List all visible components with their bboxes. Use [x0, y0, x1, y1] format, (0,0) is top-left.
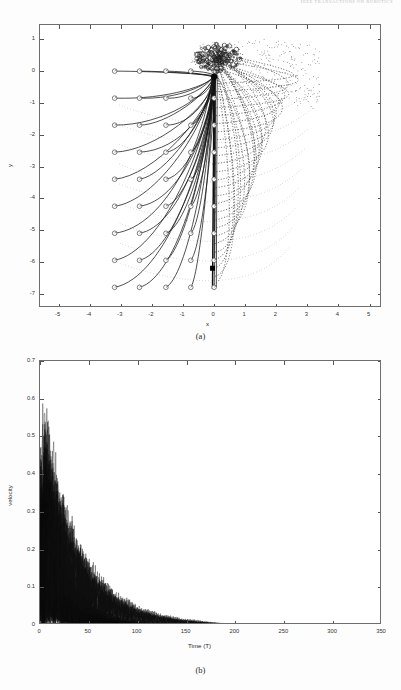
panel-a-ytick-right — [378, 135, 381, 136]
panel-a-plot-canvas — [40, 25, 381, 307]
panel-a-xlabel: x — [206, 320, 209, 327]
panel-a-xtick — [245, 304, 246, 307]
panel-b-ytick — [40, 550, 44, 551]
panel-a-xtick-label: -5 — [55, 311, 60, 317]
panel-a-ytick-label: -7 — [17, 290, 35, 296]
panel-b-ytick — [40, 587, 44, 588]
panel-a-ytick — [40, 39, 44, 40]
panel-b-xtick-label: 100 — [132, 628, 142, 634]
panel-b-xtick — [89, 621, 90, 624]
panel-b-ytick-right — [378, 512, 381, 513]
panel-b-ytick-right — [378, 399, 381, 400]
panel-b-xtick-label: 50 — [85, 628, 91, 634]
panel-b-ytick-label: 0.5 — [15, 432, 35, 438]
panel-a: x y (a) -5-4-3-2-101234510-1-2-3-4-5-6-7 — [0, 0, 401, 345]
panel-a-xtick — [59, 304, 60, 307]
panel-b-xtick-label: 150 — [181, 628, 191, 634]
panel-b-ytick-label: 0.7 — [15, 357, 35, 363]
panel-b-xtick-label: 200 — [230, 628, 240, 634]
panel-a-xtick-top — [121, 25, 122, 29]
panel-b-xtick — [284, 621, 285, 624]
panel-b-xtick-label: 350 — [376, 628, 386, 634]
panel-b-ytick — [40, 361, 44, 362]
panel-a-ytick-label: -1 — [17, 99, 35, 105]
panel-a-xtick — [90, 304, 91, 307]
panel-b-xtick-top — [187, 361, 188, 365]
panel-b-xtick-label: 250 — [278, 628, 288, 634]
panel-a-xtick — [276, 304, 277, 307]
panel-b-ytick — [40, 474, 44, 475]
panel-b-ytick — [40, 399, 44, 400]
panel-a-xtick-label: 5 — [367, 311, 370, 317]
panel-a-ytick-right — [378, 294, 381, 295]
panel-b-xtick — [235, 621, 236, 624]
panel-a-xtick-label: 3 — [305, 311, 308, 317]
panel-b-ytick-label: 0.6 — [15, 395, 35, 401]
panel-a-xtick — [307, 304, 308, 307]
panel-a-xtick-label: 2 — [274, 311, 277, 317]
panel-b-caption: (b) — [0, 665, 401, 675]
panel-b-ytick-right — [378, 361, 381, 362]
panel-a-ytick-right — [378, 71, 381, 72]
panel-a-xtick — [370, 304, 371, 307]
panel-a-xtick-label: 4 — [336, 311, 339, 317]
panel-a-ytick-right — [378, 230, 381, 231]
panel-a-xtick-label: 0 — [211, 311, 214, 317]
panel-a-xtick-top — [338, 25, 339, 29]
panel-b-xlabel: Time (T) — [188, 642, 211, 649]
panel-b-xtick — [40, 621, 41, 624]
panel-b-axes-frame — [39, 360, 381, 624]
panel-b-xtick-top — [333, 361, 334, 365]
panel-b-ytick-right — [378, 474, 381, 475]
panel-a-ytick-right — [378, 262, 381, 263]
panel-b-xtick-top — [138, 361, 139, 365]
panel-b-ylabel: velocity — [6, 485, 13, 506]
panel-a-ytick-right — [378, 39, 381, 40]
panel-a-xtick-top — [370, 25, 371, 29]
panel-a-xtick-top — [59, 25, 60, 29]
panel-a-xtick — [338, 304, 339, 307]
panel-b-xtick-top — [235, 361, 236, 365]
panel-b-ytick-label: 0.4 — [15, 470, 35, 476]
panel-b-xtick — [138, 621, 139, 624]
panel-b-xtick-label: 0 — [37, 628, 40, 634]
panel-a-xtick-top — [152, 25, 153, 29]
panel-b-ytick-label: 0.3 — [15, 508, 35, 514]
panel-b-ytick-label: 0.2 — [15, 546, 35, 552]
panel-b-xtick-top — [284, 361, 285, 365]
panel-a-ytick-label: -5 — [17, 226, 35, 232]
panel-a-xtick-top — [307, 25, 308, 29]
panel-a-ytick-right — [378, 103, 381, 104]
panel-a-xtick-top — [245, 25, 246, 29]
panel-a-xtick-top — [214, 25, 215, 29]
panel-a-ytick-label: -3 — [17, 163, 35, 169]
panel-b-ytick-label: 0 — [15, 621, 35, 627]
panel-a-xtick-label: 1 — [243, 311, 246, 317]
panel-a-ytick — [40, 71, 44, 72]
panel-a-ytick — [40, 103, 44, 104]
panel-a-ytick — [40, 230, 44, 231]
panel-a-xtick — [183, 304, 184, 307]
panel-a-ytick-label: -6 — [17, 258, 35, 264]
panel-a-xtick-label: -3 — [117, 311, 122, 317]
panel-b-ytick-right — [378, 436, 381, 437]
panel-a-xtick-top — [183, 25, 184, 29]
panel-a-ytick-right — [378, 167, 381, 168]
panel-b-ytick — [40, 512, 44, 513]
panel-b-ytick-right — [378, 587, 381, 588]
panel-a-xtick-label: -1 — [179, 311, 184, 317]
panel-a-xtick-label: -4 — [86, 311, 91, 317]
panel-a-xtick-top — [90, 25, 91, 29]
panel-a-caption: (a) — [0, 331, 401, 341]
panel-b-xtick-top — [89, 361, 90, 365]
panel-a-xtick-top — [276, 25, 277, 29]
panel-a-ytick — [40, 198, 44, 199]
figure-page: IEEE TRANSACTIONS ON ROBOTICS x y (a) -5… — [0, 0, 401, 690]
panel-b-xtick — [187, 621, 188, 624]
panel-a-ylabel: y — [6, 164, 13, 167]
panel-b-xtick-label: 300 — [327, 628, 337, 634]
panel-a-ytick — [40, 167, 44, 168]
panel-b-ytick-label: 0.1 — [15, 583, 35, 589]
panel-a-xtick — [121, 304, 122, 307]
panel-a-ytick — [40, 294, 44, 295]
